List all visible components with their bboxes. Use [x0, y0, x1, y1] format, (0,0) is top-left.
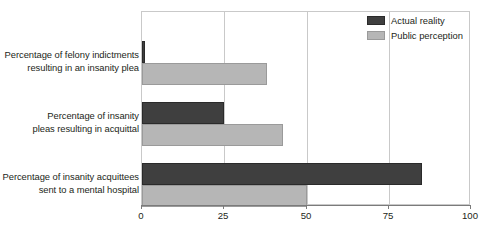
legend-item-actual-reality: Actual reality: [367, 14, 465, 27]
legend-label-actual-reality: Actual reality: [391, 15, 445, 26]
tick-mark-50: [306, 205, 307, 209]
legend-swatch-public-perception: [367, 31, 385, 40]
legend-swatch-actual-reality: [367, 16, 385, 25]
tick-label-0: 0: [138, 210, 143, 221]
bar-actual-reality-2: [142, 163, 422, 185]
bar-public-perception-1: [142, 124, 283, 146]
category-label-1-line2: pleas resulting in acquittal: [0, 123, 139, 136]
tick-label-75: 75: [383, 210, 394, 221]
category-label-1: Percentage of insanity pleas resulting i…: [0, 110, 139, 135]
tick-mark-0: [141, 205, 142, 209]
bar-actual-reality-1: [142, 102, 224, 124]
bar-chart: Percentage of felony indictments resulti…: [0, 0, 486, 232]
tick-mark-25: [223, 205, 224, 209]
category-label-2-line2: sent to a mental hospital: [0, 184, 139, 197]
tick-mark-100: [470, 205, 471, 209]
tick-label-50: 50: [301, 210, 312, 221]
tick-label-100: 100: [462, 210, 478, 221]
category-label-1-line1: Percentage of insanity: [47, 110, 139, 121]
legend-item-public-perception: Public perception: [367, 29, 465, 42]
bar-public-perception-0: [142, 63, 267, 85]
tick-label-25: 25: [218, 210, 229, 221]
category-label-2-line1: Percentage of insanity acquittees: [3, 171, 139, 182]
category-label-0: Percentage of felony indictments resulti…: [0, 49, 139, 74]
legend: Actual reality Public perception: [367, 14, 465, 44]
tick-mark-75: [388, 205, 389, 209]
bar-actual-reality-0: [142, 41, 145, 63]
legend-label-public-perception: Public perception: [391, 30, 463, 41]
category-label-0-line2: resulting in an insanity plea: [0, 62, 139, 75]
category-label-0-line1: Percentage of felony indictments: [5, 49, 139, 60]
bar-public-perception-2: [142, 185, 307, 207]
category-label-2: Percentage of insanity acquittees sent t…: [0, 171, 139, 196]
